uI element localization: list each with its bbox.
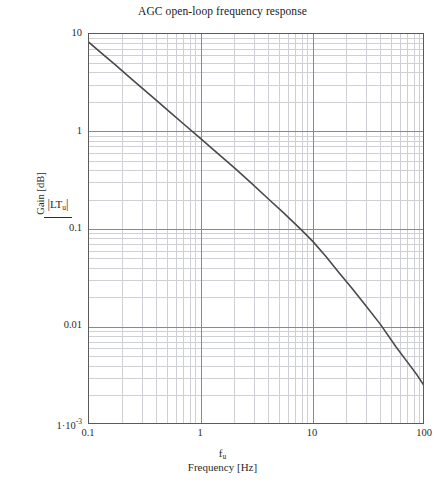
x-axis-variable-label: fu xyxy=(0,447,445,461)
y-axis-variable-name: LT xyxy=(50,198,62,210)
x-axis-label: Frequency [Hz] xyxy=(0,461,445,473)
y-axis-variable-label: |LTu| xyxy=(41,198,75,212)
chart-title: AGC open-loop frequency response xyxy=(0,5,445,17)
chart-root: AGC open-loop frequency response 10 1 0.… xyxy=(0,0,445,485)
y-tick-label-0.01: 0.01 xyxy=(40,319,82,330)
x-tick-label-1: 1 xyxy=(180,427,220,438)
y-tick-label-0.1: 0.1 xyxy=(40,222,82,233)
x-axis-variable-subscript: u xyxy=(222,452,226,461)
x-tick-label-10: 10 xyxy=(292,427,332,438)
y-axis-label-rule xyxy=(44,217,72,218)
x-tick-label-100: 100 xyxy=(404,427,444,438)
x-tick-label-0.1: 0.1 xyxy=(68,427,108,438)
y-tick-exponent: -3 xyxy=(76,417,82,426)
y-tick-label-10: 10 xyxy=(40,27,82,38)
y-tick-label-1: 1 xyxy=(40,125,82,136)
data-series-curve xyxy=(89,34,424,424)
plot-area xyxy=(88,33,424,424)
